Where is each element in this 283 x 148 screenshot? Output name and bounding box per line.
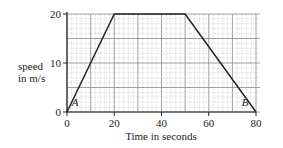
y-axis-label-line1: speed [18,60,44,72]
x-axis-label: Time in seconds [125,130,197,142]
x-tick-label: 0 [64,117,70,129]
x-tick-label: 60 [203,117,215,129]
y-axis-label-line2: in m/s [18,72,45,84]
x-tick-label: 80 [251,117,263,129]
point-label-a: A [71,96,79,108]
y-tick-label: 0 [56,106,62,118]
y-tick-label: 10 [50,57,62,69]
x-tick-label: 20 [109,117,121,129]
speed-time-graph: 02040608001020 AB speed in m/s Time in s… [0,0,283,148]
point-label-b: B [242,96,249,108]
grid [67,14,260,112]
x-tick-label: 40 [156,117,168,129]
y-tick-label: 20 [50,8,62,20]
tick-labels: 02040608001020 [50,8,262,129]
